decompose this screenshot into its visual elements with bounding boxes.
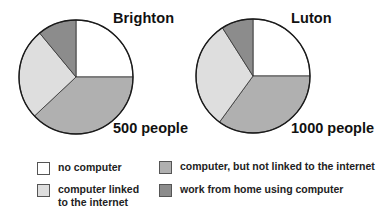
pie-luton-svg <box>253 76 254 77</box>
legend-label: work from home using computer <box>180 183 343 196</box>
legend-item-computer-linked: computer linked to the internet <box>37 184 139 209</box>
population-label-luton: 1000 people <box>291 121 374 136</box>
legend-label: computer, but not linked to the internet <box>180 160 375 173</box>
slice-no-computer <box>253 19 310 76</box>
legend-label-line2: to the internet <box>58 196 128 208</box>
chart-title-luton: Luton <box>291 11 332 26</box>
pie-brighton-svg <box>76 77 77 78</box>
legend-item-not-linked: computer, but not linked to the internet <box>159 161 375 174</box>
legend-label: no computer <box>58 161 122 174</box>
legend-swatch-computer-linked <box>37 184 50 197</box>
legend-label-line1: computer linked <box>58 183 139 195</box>
legend-swatch-not-linked <box>159 161 172 174</box>
slice-no-computer <box>76 20 133 77</box>
population-label-brighton: 500 people <box>113 121 188 136</box>
legend-label: computer linked to the internet <box>58 183 139 209</box>
legend-swatch-work-from-home <box>159 184 172 197</box>
chart-title-brighton: Brighton <box>113 11 174 26</box>
legend-swatch-no-computer <box>37 162 50 175</box>
legend-item-no-computer: no computer <box>37 162 122 175</box>
legend-item-work-from-home: work from home using computer <box>159 184 343 197</box>
